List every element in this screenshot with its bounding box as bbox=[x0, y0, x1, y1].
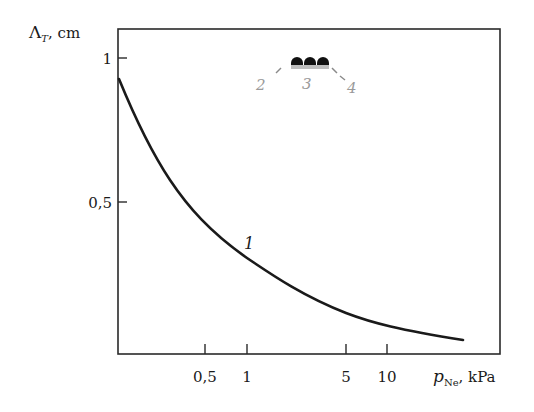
x-tick-label-5: 5 bbox=[341, 368, 351, 386]
curve-label-1: 1 bbox=[244, 234, 254, 253]
curve-label-4: 4 bbox=[346, 79, 357, 97]
x-axis-tick-labels: 0,5 1 5 10 bbox=[193, 368, 396, 386]
y-tick-label-1: 1 bbox=[102, 50, 112, 68]
y-axis-label: ΛT, cm bbox=[28, 22, 80, 44]
x-axis-ticks bbox=[205, 344, 387, 354]
x-tick-label-10: 10 bbox=[377, 368, 396, 386]
curve-label-3: 3 bbox=[302, 75, 312, 93]
dot-icon bbox=[291, 57, 303, 65]
dot-icon bbox=[304, 57, 316, 65]
dot-shadow bbox=[291, 65, 329, 69]
faded-markers: 2 3 4 bbox=[255, 57, 357, 97]
marker-4-dash-a bbox=[332, 68, 337, 73]
x-axis-label: pNe, kPa bbox=[433, 366, 496, 388]
curve-label-2: 2 bbox=[255, 76, 266, 94]
curve-1 bbox=[119, 79, 463, 340]
marker-2-dash bbox=[276, 68, 281, 73]
dot-icon bbox=[317, 57, 329, 65]
chart-canvas: 1 0,5 0,5 1 5 10 ΛT, cm pNe, kPa 1 2 3 4 bbox=[0, 0, 534, 412]
y-tick-label-0-5: 0,5 bbox=[88, 194, 112, 212]
y-axis-tick-labels: 1 0,5 bbox=[88, 50, 112, 212]
x-tick-label-0-5: 0,5 bbox=[193, 368, 217, 386]
x-tick-label-1: 1 bbox=[242, 368, 252, 386]
marker-4-dash-b bbox=[340, 76, 345, 80]
